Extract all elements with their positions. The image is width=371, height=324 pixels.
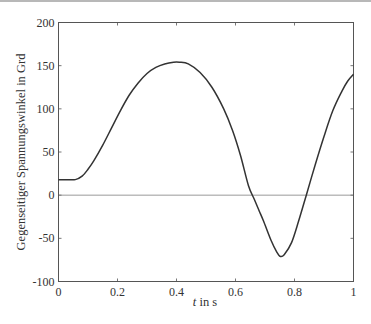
y-tick-label: 0	[49, 188, 55, 202]
y-tick-labels: 200150100500-50-100	[33, 16, 55, 289]
y-tick-label: 50	[43, 145, 55, 159]
y-axis-label: Gegenseitiger Spannungswinkel in Grd	[14, 53, 28, 251]
y-tick-label: -100	[33, 275, 55, 289]
line-chart: 200150100500-50-100 00.20.40.60.81 t in …	[0, 0, 371, 324]
y-tick-label: -50	[39, 231, 55, 245]
x-axis-label: t in s	[193, 295, 217, 309]
x-tick-label: 0	[56, 285, 62, 299]
y-tick-label: 150	[37, 59, 55, 73]
plot-frame	[59, 23, 354, 282]
y-tick-label: 200	[37, 16, 55, 30]
x-tick-label: 0.4	[169, 285, 184, 299]
data-series-line	[59, 62, 354, 257]
x-tick-label: 1	[351, 285, 357, 299]
y-tick-label: 100	[37, 102, 55, 116]
x-tick-label: 0.2	[110, 285, 125, 299]
x-tick-label: 0.8	[287, 285, 302, 299]
axis-ticks	[59, 23, 354, 282]
x-tick-label: 0.6	[228, 285, 243, 299]
